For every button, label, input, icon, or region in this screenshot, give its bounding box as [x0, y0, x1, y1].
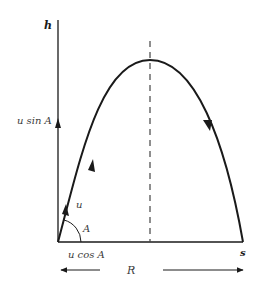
vertical-component-arrow-icon [55, 118, 61, 128]
angle-arc [64, 220, 81, 242]
descending-arrow-icon [203, 120, 212, 131]
horizontal-component-label: u cos A [68, 249, 105, 260]
vertical-component-label: u sin A [17, 115, 52, 126]
vertical-axis-label: h [44, 19, 52, 32]
range-label: R [126, 264, 135, 277]
launch-angle-label: A [82, 223, 90, 234]
horizontal-axis-label: s [240, 247, 246, 258]
initial-velocity-label: u [76, 199, 82, 210]
ascending-arrow-icon [88, 159, 95, 172]
projectile-diagram: h s u sin A u cos A u A R [0, 0, 262, 289]
